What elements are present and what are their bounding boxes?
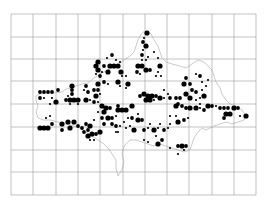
record-dot xyxy=(243,113,248,118)
record-dot xyxy=(93,93,98,98)
record-dot xyxy=(60,128,64,132)
record-dot xyxy=(142,49,144,51)
record-dot xyxy=(236,106,240,110)
record-dot xyxy=(183,149,185,151)
record-dot xyxy=(183,91,188,96)
record-dot xyxy=(167,93,169,95)
record-dot xyxy=(101,109,106,114)
record-dot xyxy=(93,139,95,141)
record-dot xyxy=(138,94,142,98)
record-dot xyxy=(154,94,158,98)
record-dot xyxy=(180,104,184,108)
record-dot xyxy=(125,127,127,129)
record-dot xyxy=(51,97,53,99)
record-dot xyxy=(143,37,145,39)
record-dot xyxy=(107,83,109,85)
record-dot xyxy=(147,56,149,58)
record-dot xyxy=(182,118,186,122)
record-dot xyxy=(142,128,146,132)
record-dot xyxy=(125,81,130,86)
record-dot xyxy=(97,129,102,134)
record-dot xyxy=(187,95,192,100)
record-dot xyxy=(56,88,60,92)
record-dot xyxy=(239,115,241,117)
record-dot xyxy=(157,95,162,100)
record-dot xyxy=(84,122,88,126)
record-dot xyxy=(83,97,88,102)
record-dot xyxy=(184,106,188,110)
record-dot xyxy=(121,75,123,77)
record-dot xyxy=(117,131,119,133)
record-dot xyxy=(67,125,72,130)
record-dot xyxy=(95,67,100,72)
record-dot xyxy=(205,103,210,108)
record-dot xyxy=(64,98,68,102)
record-dot xyxy=(143,67,148,72)
record-dot xyxy=(157,63,162,68)
record-dot xyxy=(80,126,84,130)
record-dot xyxy=(169,115,171,117)
record-dot xyxy=(162,128,166,132)
record-dot xyxy=(184,76,188,80)
region-outline xyxy=(36,31,246,176)
record-dot xyxy=(163,97,165,99)
record-dot xyxy=(69,103,71,105)
record-dot xyxy=(222,106,226,110)
record-dot xyxy=(169,147,171,149)
record-dot xyxy=(115,79,120,84)
record-dot xyxy=(210,104,214,108)
record-dot xyxy=(226,106,230,110)
record-dot xyxy=(119,125,121,127)
record-dot xyxy=(135,70,139,74)
record-dot xyxy=(118,69,123,74)
record-dot xyxy=(89,139,91,141)
distribution-map xyxy=(0,0,266,211)
record-dot xyxy=(201,89,203,91)
record-dot xyxy=(45,125,50,130)
record-dot xyxy=(125,87,127,89)
record-dot xyxy=(184,144,188,148)
record-dot xyxy=(93,119,95,121)
record-dot xyxy=(96,88,100,92)
record-dot xyxy=(115,63,120,68)
record-dot xyxy=(139,73,141,75)
record-dot xyxy=(89,99,91,101)
record-dot xyxy=(69,83,74,88)
record-dot xyxy=(173,103,178,108)
record-dot xyxy=(174,96,178,100)
record-dot xyxy=(160,75,162,77)
record-dot xyxy=(92,88,96,92)
record-dot xyxy=(147,141,149,143)
record-dot xyxy=(163,89,165,91)
record-dot xyxy=(201,93,206,98)
record-dot xyxy=(101,71,103,73)
record-dot xyxy=(76,124,80,128)
record-dot xyxy=(167,127,169,129)
record-dot xyxy=(67,95,69,97)
record-dot xyxy=(119,61,121,63)
record-dot xyxy=(102,80,106,84)
record-dot xyxy=(75,97,80,102)
record-dot xyxy=(140,53,144,57)
record-dot xyxy=(86,128,90,132)
record-dot xyxy=(123,107,128,112)
record-dot xyxy=(145,59,147,61)
record-dot xyxy=(70,88,74,92)
record-dot xyxy=(77,103,79,105)
record-dot xyxy=(144,30,149,35)
record-dot xyxy=(135,117,140,122)
record-dot xyxy=(92,100,96,104)
record-dot xyxy=(97,101,99,103)
record-dot xyxy=(198,74,202,78)
record-dot xyxy=(115,59,117,61)
record-dot xyxy=(102,122,106,126)
record-dot xyxy=(42,90,46,94)
record-dot xyxy=(65,119,70,124)
record-dot xyxy=(155,141,160,146)
record-dot xyxy=(141,59,143,61)
record-dot xyxy=(222,116,226,120)
record-dot xyxy=(143,43,148,48)
record-dot xyxy=(175,115,177,117)
record-dot xyxy=(59,121,64,126)
record-dot xyxy=(105,69,110,74)
